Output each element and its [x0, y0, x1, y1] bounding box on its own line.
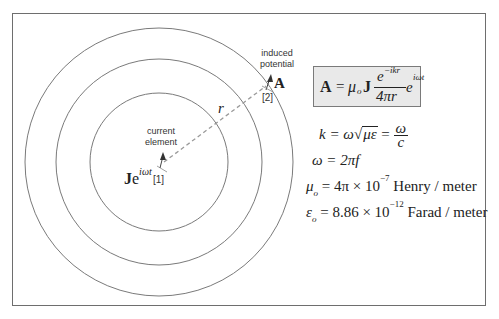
- formula-J: J: [363, 78, 371, 96]
- current-element-label: current element: [133, 126, 189, 148]
- formula-denominator: 4πr: [376, 88, 397, 105]
- current-element-label-line2: element: [133, 137, 189, 148]
- induced-potential-label: induced potential: [252, 48, 302, 70]
- distance-dashed-line: [164, 86, 266, 162]
- wavefront-middle: [56, 59, 262, 265]
- angular-frequency-equation: ω = 2πf: [312, 152, 359, 169]
- epsilon-unit: Farad / meter: [404, 204, 488, 220]
- observer-index: [2]: [262, 92, 273, 103]
- distance-label: r: [218, 100, 224, 117]
- mu-unit: Henry / meter: [390, 178, 477, 194]
- epsilon-sub: o: [312, 214, 317, 224]
- k-symbol: k: [319, 126, 326, 142]
- formula-numerator-exp: −ikr: [384, 65, 400, 75]
- induced-potential-label-line1: induced: [252, 48, 302, 59]
- current-element-arrow-icon: [157, 152, 167, 172]
- wavenumber-equation: k = ω√με = ωc: [319, 122, 408, 149]
- epsilon-exponent: −12: [390, 199, 404, 209]
- frac-denominator: c: [394, 136, 409, 149]
- source-symbol-J: J: [124, 170, 132, 187]
- vector-potential-formula-box: A = μ o J e −ikr 4πr e iωt: [313, 66, 421, 107]
- observer-symbol: A: [274, 75, 285, 92]
- sqrt-sign-icon: √: [354, 126, 362, 142]
- mu-symbol: μ: [306, 178, 314, 194]
- current-element-label-line1: current: [133, 126, 189, 137]
- formula-tail: e: [406, 79, 413, 96]
- wavefront-inner: [90, 93, 228, 231]
- induced-potential-label-line2: potential: [252, 59, 302, 70]
- formula-tail-exp: iωt: [413, 72, 424, 82]
- epsilon-value: = 8.86 × 10: [316, 204, 389, 220]
- formula-mu: μ: [348, 78, 356, 96]
- k-eq1: = ω: [326, 126, 354, 142]
- formula-lhs: A: [320, 78, 332, 96]
- source-symbol-exponent: iωt: [139, 166, 152, 177]
- formula-equals: =: [336, 78, 344, 95]
- omega-over-c: ωc: [394, 122, 409, 149]
- formula-numerator: e: [377, 68, 384, 85]
- mu-sub: o: [314, 188, 319, 198]
- formula-mu-sub: o: [357, 86, 362, 96]
- mu-value: = 4π × 10: [318, 178, 380, 194]
- source-index: [1]: [153, 174, 164, 185]
- wavefront-diagram: [0, 0, 499, 319]
- permittivity-equation: εo = 8.86 × 10−12 Farad / meter: [306, 203, 487, 223]
- k-sqrt-content: με: [362, 126, 377, 142]
- k-eq2: =: [378, 126, 394, 142]
- source-symbol: Jeiωt: [124, 169, 152, 188]
- permeability-equation: μo = 4π × 10−7 Henry / meter: [306, 177, 477, 197]
- mu-exponent: −7: [380, 173, 390, 183]
